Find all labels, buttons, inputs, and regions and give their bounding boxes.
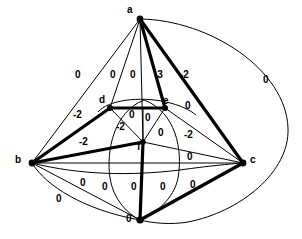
edge-g-c — [140, 163, 243, 220]
vertex-dot-a[interactable] — [137, 16, 144, 23]
vertex-dot-d[interactable] — [107, 105, 113, 111]
vertex-label-e: e — [163, 96, 169, 106]
weight-label-a-c-outer: 0 — [263, 75, 269, 85]
weight-label-g-c: 0 — [190, 180, 196, 190]
weight-label-a-d: 0 — [110, 70, 116, 80]
graph-canvas — [0, 0, 302, 239]
arc-b-c-low — [32, 163, 243, 174]
vertex-label-a: a — [127, 5, 133, 15]
weight-label-a-e: -3 — [154, 70, 163, 80]
weighted-graph-diagram: a b c d e f 0 0 0 -3 -2 0 0 -2 -2 0 0 0 … — [0, 0, 302, 239]
edge-a-c — [140, 19, 243, 163]
vertex-dot-b[interactable] — [29, 160, 36, 167]
weight-label-b-g-left: 0 — [102, 182, 108, 192]
weight-label-a-c: -2 — [180, 70, 189, 80]
weight-label-f-c: 0 — [187, 152, 193, 162]
edge-f-g — [140, 142, 143, 220]
weight-label-d-f: -2 — [116, 122, 125, 132]
weight-label-g-bottom: 0 — [126, 214, 132, 224]
weight-label-b-c: 0 — [80, 178, 86, 188]
weight-label-b-f: -2 — [79, 137, 88, 147]
weight-label-f-g: 0 — [131, 182, 137, 192]
vertex-dot-g[interactable] — [136, 216, 143, 223]
weight-label-g-c-inner: 0 — [160, 182, 166, 192]
vertex-label-b: b — [15, 155, 21, 165]
weight-label-b-d: -2 — [73, 110, 82, 120]
vertex-label-c: c — [250, 155, 256, 165]
weight-label-a-f: 0 — [130, 70, 136, 80]
edge-a-e — [140, 19, 165, 108]
weight-label-e-f-upper: 0 — [145, 113, 151, 123]
weight-label-b-a-outer: 0 — [75, 70, 81, 80]
weight-label-d-e: 0 — [129, 110, 135, 120]
weight-label-e-f-lower: 0 — [158, 128, 164, 138]
weight-label-e-c: -2 — [184, 130, 193, 140]
vertex-dot-f[interactable] — [140, 139, 146, 145]
edge-d-f — [110, 108, 143, 142]
lens-left — [109, 100, 144, 220]
weight-label-e-a-right: 0 — [185, 101, 191, 111]
edge-a-d — [110, 19, 140, 108]
vertex-label-d: d — [99, 95, 105, 105]
vertex-label-f: f — [137, 142, 140, 152]
weight-label-b-g-outer: 0 — [56, 194, 62, 204]
vertex-dot-c[interactable] — [240, 160, 247, 167]
